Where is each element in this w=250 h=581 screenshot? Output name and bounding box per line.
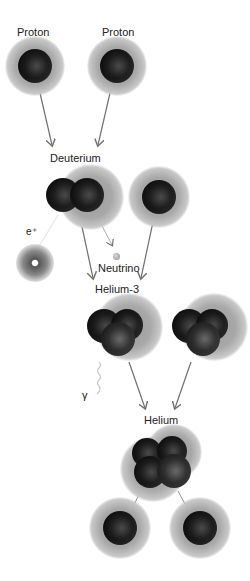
proton-left: [5, 36, 65, 96]
proton-incoming: [128, 166, 190, 228]
proton-released-left: [89, 497, 151, 559]
deuterium: [44, 166, 122, 228]
helium3-left: [85, 295, 163, 367]
positron: [16, 244, 54, 282]
neutrino-label: Neutrino: [98, 262, 140, 274]
deuterium-label: Deuterium: [50, 152, 101, 164]
proton-released-right: [169, 497, 231, 559]
proton-right: [87, 36, 147, 96]
helium3-right: [170, 295, 248, 367]
positron-label: e⁺: [26, 226, 37, 237]
gamma-label: γ: [82, 389, 88, 401]
helium: [120, 426, 200, 506]
neutrino: [113, 253, 120, 260]
